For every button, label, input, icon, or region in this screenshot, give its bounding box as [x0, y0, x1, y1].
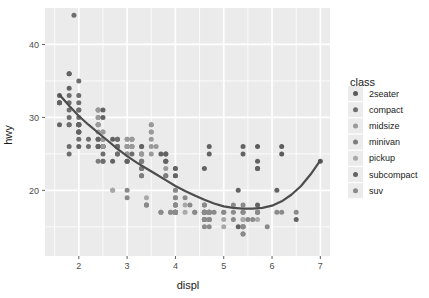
data-point [139, 144, 144, 149]
data-point [96, 159, 101, 164]
data-point [76, 108, 81, 113]
legend-item-label: compact [369, 105, 404, 115]
chart-canvas: 234567 203040 displ hwy class 2seatercom… [0, 0, 429, 298]
data-point [274, 210, 279, 215]
data-point [149, 151, 154, 156]
data-point [125, 144, 130, 149]
data-point [100, 130, 105, 135]
data-point [67, 122, 72, 127]
data-point [241, 232, 246, 237]
data-point [149, 122, 154, 127]
data-point [231, 217, 236, 222]
data-point [255, 144, 260, 149]
legend-key-marker [353, 107, 358, 112]
data-point [76, 130, 81, 135]
data-point [125, 159, 130, 164]
x-tick-label: 3 [125, 261, 130, 271]
data-point [144, 202, 149, 207]
data-point [173, 188, 178, 193]
data-point [67, 86, 72, 91]
legend-key-marker [353, 91, 358, 96]
data-point [125, 188, 130, 193]
data-point [163, 151, 168, 156]
data-point [67, 93, 72, 98]
data-point [207, 210, 212, 215]
data-point [221, 224, 226, 229]
data-point [241, 217, 246, 222]
y-tick-label: 40 [29, 40, 39, 50]
data-point [241, 210, 246, 215]
data-point [96, 122, 101, 127]
data-point [129, 137, 134, 142]
data-point [110, 137, 115, 142]
data-point [163, 173, 168, 178]
data-point [110, 159, 115, 164]
data-point [76, 122, 81, 127]
data-point [250, 217, 255, 222]
data-point [173, 195, 178, 200]
legend-key-marker [353, 140, 358, 145]
x-tick-label: 4 [173, 261, 178, 271]
data-point [139, 173, 144, 178]
data-point [207, 217, 212, 222]
data-point [76, 144, 81, 149]
data-point [202, 202, 207, 207]
y-axis-title: hwy [2, 125, 14, 145]
data-point [173, 202, 178, 207]
data-point [100, 108, 105, 113]
data-point [67, 115, 72, 120]
data-point [207, 224, 212, 229]
data-point [236, 224, 241, 229]
x-tick-label: 7 [318, 261, 323, 271]
data-point [202, 166, 207, 171]
data-point [76, 100, 81, 105]
x-axis-title: displ [177, 279, 200, 291]
y-tick-label: 20 [29, 186, 39, 196]
data-point [173, 173, 178, 178]
legend-key-marker [353, 172, 358, 177]
data-point [274, 188, 279, 193]
data-point [57, 122, 62, 127]
data-point [212, 210, 217, 215]
data-point [129, 151, 134, 156]
data-point [202, 224, 207, 229]
legend-key-marker [353, 188, 358, 193]
data-point [183, 202, 188, 207]
data-point [163, 166, 168, 171]
data-point [76, 78, 81, 83]
legend-item-label: midsize [369, 121, 400, 131]
data-point [241, 144, 246, 149]
data-point [255, 210, 260, 215]
data-point [241, 202, 246, 207]
legend-item-label: pickup [369, 153, 395, 163]
data-point [96, 144, 101, 149]
data-point [245, 217, 250, 222]
data-point [115, 137, 120, 142]
data-point [207, 151, 212, 156]
legend-key-marker [353, 123, 358, 128]
data-point [158, 210, 163, 215]
legend-item-label: subcompact [369, 170, 418, 180]
data-point [202, 217, 207, 222]
data-point [279, 210, 284, 215]
x-tick-label: 6 [270, 261, 275, 271]
x-tick-label: 5 [221, 261, 226, 271]
data-point [76, 93, 81, 98]
data-point [125, 195, 130, 200]
data-point [183, 210, 188, 215]
legend-item-label: minivan [369, 137, 400, 147]
legend-key-marker [353, 156, 358, 161]
data-point [149, 130, 154, 135]
data-point [173, 166, 178, 171]
y-tick-label: 30 [29, 113, 39, 123]
data-point [241, 224, 246, 229]
data-point [71, 13, 76, 18]
data-point [110, 188, 115, 193]
data-point [183, 195, 188, 200]
data-point [187, 202, 192, 207]
data-point [149, 144, 154, 149]
data-point [67, 144, 72, 149]
data-point [149, 137, 154, 142]
data-point [255, 202, 260, 207]
data-point [236, 188, 241, 193]
